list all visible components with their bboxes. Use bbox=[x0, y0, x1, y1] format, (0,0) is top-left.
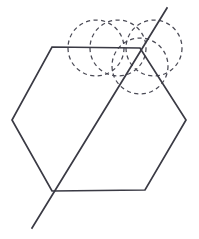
geometry-figure: Geometric construction: hexagon with tra… bbox=[0, 0, 199, 239]
figure-canvas: Geometric construction: hexagon with tra… bbox=[0, 0, 199, 239]
dashed-circles-group bbox=[68, 20, 182, 94]
transversal-line bbox=[32, 8, 167, 228]
solid-lines-group bbox=[12, 8, 186, 228]
